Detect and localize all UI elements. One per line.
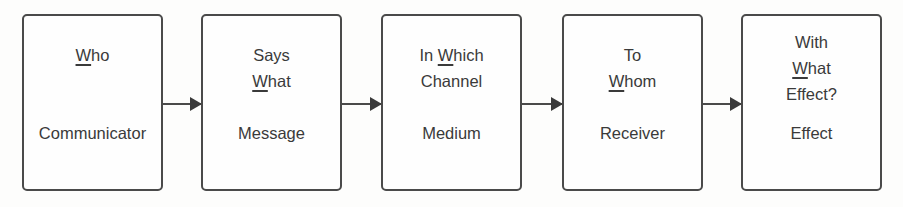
question-line: Effect? (743, 81, 880, 107)
question-line: With (743, 29, 880, 55)
question-line: To (564, 42, 701, 68)
arrow-4 (703, 103, 741, 105)
question-line: Whom (564, 68, 701, 94)
box-effect: With What Effect? Effect (741, 14, 882, 191)
box-communicator: Who Communicator (22, 14, 163, 191)
question-says-what: Says What (203, 42, 340, 94)
underlined-w: W (252, 72, 268, 90)
arrow-1 (163, 103, 201, 105)
label-communicator: Communicator (24, 123, 161, 143)
question-who: Who (24, 42, 161, 68)
question-line: Channel (383, 68, 520, 94)
question-to-whom: To Whom (564, 42, 701, 94)
question-with-what-effect: With What Effect? (743, 29, 880, 107)
question-text: In (419, 46, 437, 64)
question-line: Says (203, 42, 340, 68)
underlined-w: W (792, 59, 808, 77)
box-medium: In Which Channel Medium (381, 14, 522, 191)
box-receiver: To Whom Receiver (562, 14, 703, 191)
label-effect: Effect (743, 123, 880, 143)
question-line: What (203, 68, 340, 94)
underlined-w: W (609, 72, 625, 90)
label-message: Message (203, 123, 340, 143)
question-line: In Which (383, 42, 520, 68)
question-text: hat (808, 59, 831, 77)
underlined-w: W (438, 46, 454, 64)
question-text: ho (91, 46, 109, 64)
box-message: Says What Message (201, 14, 342, 191)
underlined-w: W (76, 46, 92, 64)
question-text: hom (624, 72, 656, 90)
arrow-3 (522, 103, 562, 105)
label-receiver: Receiver (564, 123, 701, 143)
question-text: hat (268, 72, 291, 90)
arrow-2 (342, 103, 381, 105)
question-in-which-channel: In Which Channel (383, 42, 520, 94)
question-line: What (743, 55, 880, 81)
question-text: hich (453, 46, 483, 64)
label-medium: Medium (383, 123, 520, 143)
